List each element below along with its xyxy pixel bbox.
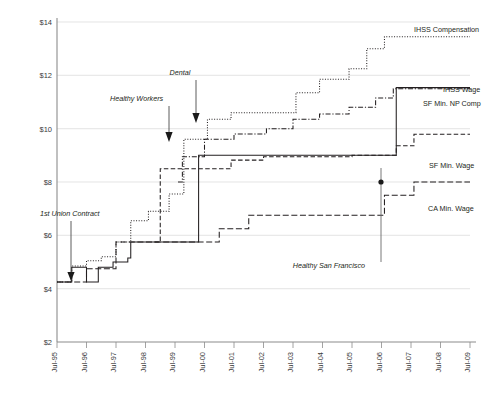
annotation-label: Healthy San Francisco <box>293 261 365 270</box>
series-line-ihss-compensation <box>57 37 470 282</box>
series-line-sf-min-wage <box>154 134 470 242</box>
y-tick-label: $12 <box>39 71 52 80</box>
arrowhead-icon <box>67 272 74 281</box>
y-tick-label: $4 <box>44 285 52 294</box>
y-tick-labels: $14 $12 $10 $8 $6 $4 $2 <box>39 18 52 347</box>
x-tick-label: Jul-04 <box>316 352 325 372</box>
series-label-ihss-compensation: IHSS Compensation <box>414 25 479 34</box>
healthy-sf-marker-dot <box>378 179 383 184</box>
x-tick-label: Jul-96 <box>80 352 89 372</box>
x-tick-group: Jul-95Jul-96Jul-97Jul-98Jul-99Jul-00Jul-… <box>50 342 472 372</box>
annotation-label: 1st Union Contract <box>40 209 101 218</box>
x-tick-label: Jul-98 <box>139 352 148 372</box>
y-tick-label: $2 <box>44 338 52 347</box>
x-tick-label: Jul-99 <box>168 352 177 372</box>
x-tick-label: Jul-08 <box>434 352 443 372</box>
series-line-ihss-wage <box>57 88 470 282</box>
x-tick-label: Jul-03 <box>286 352 295 372</box>
series-label-ihss-wage: IHSS Wage <box>443 85 480 94</box>
y-tick-label: $8 <box>44 178 52 187</box>
series-label-sf-min-np-comp: SF Min. NP Comp <box>423 99 481 108</box>
y-tick-label: $6 <box>44 231 52 240</box>
series-line-ca-min-wage <box>57 182 470 282</box>
annotation-label: Dental <box>170 68 191 77</box>
annotation-1st-union-contract: 1st Union Contract <box>40 209 101 281</box>
x-tick-label: Jul-95 <box>50 352 59 372</box>
y-tick-label: $14 <box>39 18 52 27</box>
x-tick-label: Jul-07 <box>404 352 413 372</box>
x-tick-label: Jul-00 <box>198 352 207 372</box>
series-labels: IHSS Compensation IHSS Wage SF Min. NP C… <box>414 25 481 213</box>
series-label-ca-min-wage: CA Min. Wage <box>428 204 474 213</box>
x-tick-label: Jul-05 <box>345 352 354 372</box>
x-tick-label: Jul-06 <box>375 352 384 372</box>
y-tick-label: $10 <box>39 125 52 134</box>
x-tick-label: Jul-97 <box>109 352 118 372</box>
annotation-dental: Dental <box>170 68 200 123</box>
wage-comparison-chart: $14 $12 $10 $8 $6 $4 $2 Jul-95Jul-96Jul-… <box>0 0 498 417</box>
annotation-healthy-workers: Healthy Workers <box>110 94 173 142</box>
annotation-healthy-san-francisco: Healthy San Francisco <box>293 261 365 270</box>
arrowhead-icon <box>192 113 199 123</box>
x-tick-label: Jul-02 <box>257 352 266 372</box>
series-label-sf-min-wage: SF Min. Wage <box>429 161 474 170</box>
x-tick-label: Jul-09 <box>463 352 472 372</box>
annotation-label: Healthy Workers <box>110 94 164 103</box>
arrowhead-icon <box>165 132 172 142</box>
chart-svg: $14 $12 $10 $8 $6 $4 $2 Jul-95Jul-96Jul-… <box>0 0 498 417</box>
series-group <box>57 37 470 282</box>
x-tick-label: Jul-01 <box>227 352 236 372</box>
